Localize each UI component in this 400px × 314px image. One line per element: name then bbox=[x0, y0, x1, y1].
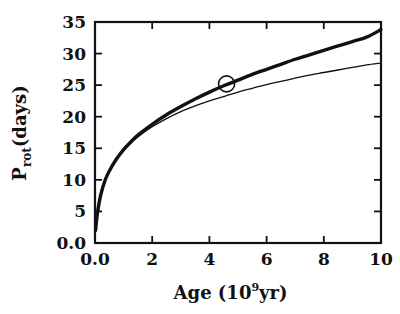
chart-figure: 0.0246810 0.05101520253035 Age (10 9 yr)… bbox=[0, 0, 400, 314]
y-tick-label: 0.0 bbox=[56, 233, 86, 253]
y-tick-label: 5 bbox=[74, 201, 86, 221]
y-tick-label: 20 bbox=[62, 107, 86, 127]
x-tick-label: 4 bbox=[203, 249, 215, 269]
y-tick-label: 35 bbox=[62, 12, 86, 32]
x-tick-label: 10 bbox=[369, 249, 393, 269]
y-tick-label: 10 bbox=[62, 170, 86, 190]
y-axis-title-base: P bbox=[9, 167, 30, 181]
y-tick-label: 25 bbox=[62, 75, 86, 95]
y-tick-label: 30 bbox=[62, 44, 86, 64]
y-axis-title-tail: (days) bbox=[9, 85, 30, 147]
x-axis-title-tail: yr) bbox=[258, 282, 287, 303]
y-axis-title-subscript: rot bbox=[20, 147, 34, 167]
x-tick-label: 8 bbox=[318, 249, 330, 269]
x-axis-title-exponent: 9 bbox=[251, 281, 259, 294]
chart-svg: 0.0246810 0.05101520253035 Age (10 9 yr)… bbox=[0, 0, 400, 314]
x-axis-title-base: Age (10 bbox=[173, 282, 252, 303]
x-tick-label: 2 bbox=[146, 249, 158, 269]
x-tick-label: 6 bbox=[261, 249, 273, 269]
y-tick-label: 15 bbox=[62, 138, 86, 158]
x-axis-title: Age (10 9 yr) bbox=[173, 281, 288, 303]
